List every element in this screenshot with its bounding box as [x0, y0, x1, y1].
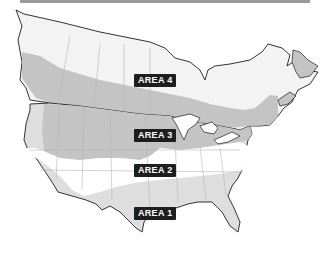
area-3-label: AREA 3	[134, 129, 176, 142]
area-4-label: AREA 4	[134, 74, 176, 87]
area-2-label: AREA 2	[134, 164, 176, 177]
area-1-label: AREA 1	[134, 207, 176, 220]
